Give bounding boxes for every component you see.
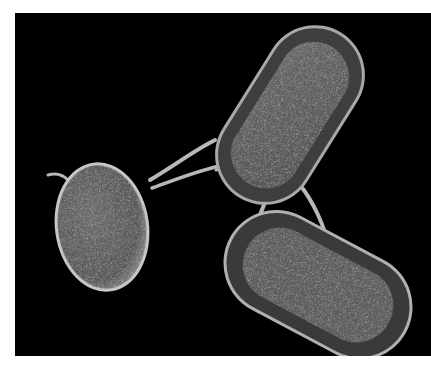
micrograph-image	[15, 13, 431, 356]
top-rod-cell	[196, 13, 384, 224]
micrograph-frame	[15, 13, 431, 356]
